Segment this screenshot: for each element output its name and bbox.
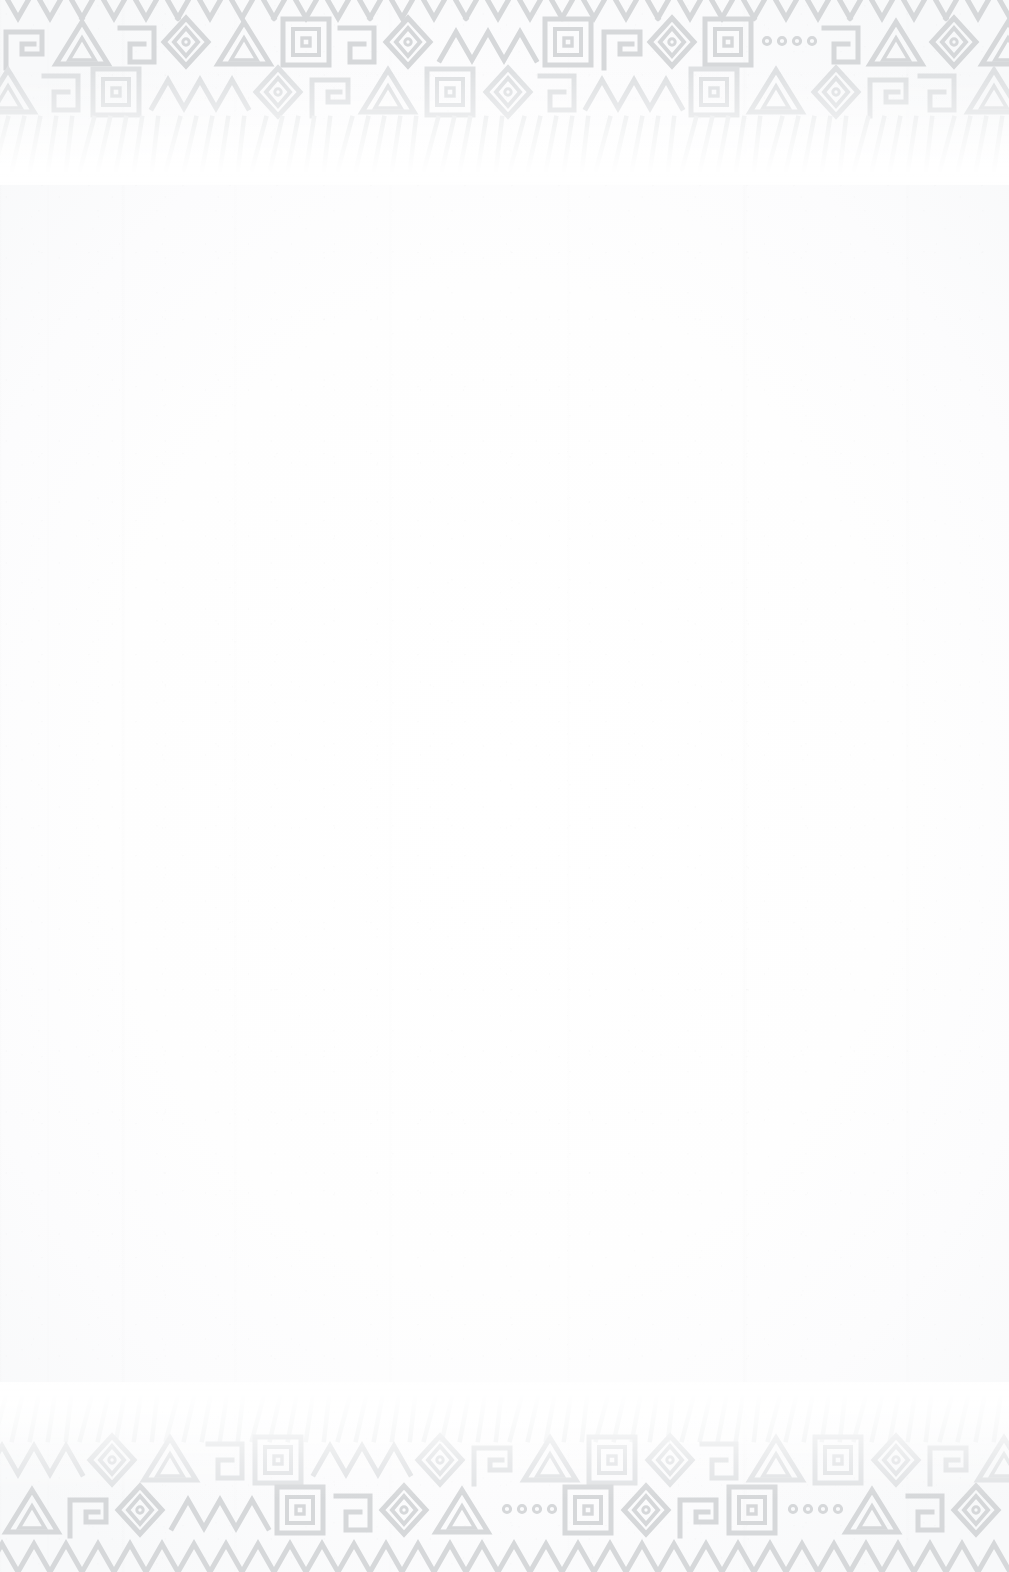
bottom-border-fade	[0, 1382, 1009, 1572]
top-decorative-border	[0, 0, 1009, 185]
bottom-decorative-border	[0, 1382, 1009, 1572]
scanned-page	[0, 0, 1009, 1572]
page-body-blank	[0, 185, 1009, 1382]
top-border-fade	[0, 0, 1009, 185]
